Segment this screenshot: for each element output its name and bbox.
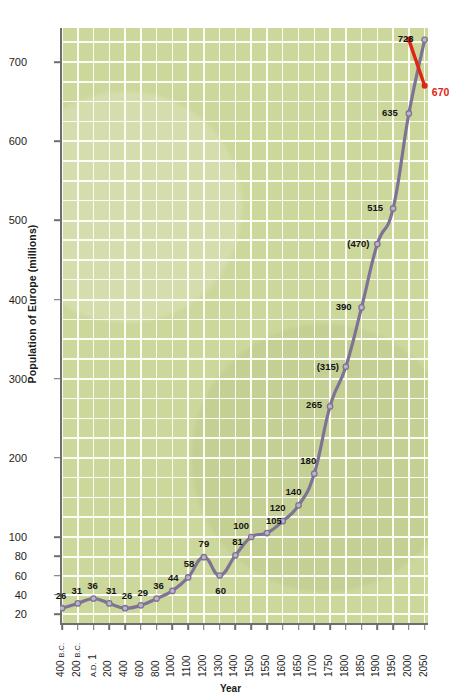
y-axis-tick-mark bbox=[54, 61, 60, 63]
gridline-horizontal bbox=[60, 81, 428, 83]
data-label: 105 bbox=[266, 515, 282, 526]
x-axis-tick-label: 1500 bbox=[244, 655, 255, 677]
x-axis-tick-mark bbox=[77, 625, 79, 630]
y-axis-tick-mark bbox=[54, 613, 60, 615]
gridline-horizontal bbox=[60, 477, 428, 479]
x-axis-tick-mark bbox=[124, 625, 126, 630]
gridline-vertical bbox=[109, 28, 111, 625]
x-axis-tick-mark bbox=[61, 625, 63, 630]
gridline-vertical bbox=[361, 28, 363, 625]
gridline-vertical bbox=[203, 28, 205, 625]
gridline-horizontal bbox=[60, 259, 428, 261]
gridline-horizontal bbox=[60, 180, 428, 182]
gridline-horizontal bbox=[60, 378, 428, 380]
y-axis-tick-mark bbox=[54, 140, 60, 142]
x-axis-tick-label: 400 B.C. bbox=[55, 643, 66, 677]
x-axis-tick-mark bbox=[266, 625, 268, 630]
gridline-horizontal bbox=[60, 160, 428, 162]
gridline-horizontal bbox=[60, 140, 428, 142]
gridline-horizontal bbox=[60, 319, 428, 321]
y-axis-tick-label: 80 bbox=[1, 550, 27, 562]
x-axis-tick-label: 1850 bbox=[355, 655, 366, 677]
x-axis-tick-mark bbox=[345, 625, 347, 630]
data-label: 81 bbox=[232, 536, 243, 547]
gridline-vertical bbox=[187, 28, 189, 625]
x-axis-tick-mark bbox=[187, 625, 189, 630]
gridline-horizontal bbox=[60, 536, 428, 538]
data-label: 60 bbox=[215, 584, 226, 595]
data-label: 100 bbox=[233, 520, 249, 531]
data-label: 180 bbox=[300, 454, 316, 465]
x-axis-tick-mark bbox=[140, 625, 142, 630]
data-label: 390 bbox=[336, 301, 352, 312]
gridline-vertical bbox=[329, 28, 331, 625]
gridline-horizontal bbox=[60, 358, 428, 360]
x-axis-tick-label: 1400 bbox=[228, 655, 239, 677]
x-axis-tick-label: 1800 bbox=[339, 655, 350, 677]
data-label: 265 bbox=[306, 399, 322, 410]
x-axis-tick-mark bbox=[313, 625, 315, 630]
x-axis-tick-label: 1000 bbox=[165, 655, 176, 677]
x-axis-tick-label: 600 bbox=[134, 660, 145, 677]
gridline-horizontal bbox=[60, 220, 428, 222]
x-axis-tick-label: 200 B.C. bbox=[71, 643, 82, 677]
data-label: 31 bbox=[106, 585, 117, 596]
gridline-vertical bbox=[377, 28, 379, 625]
data-label: 635 bbox=[382, 107, 398, 118]
y-axis-tick-mark bbox=[54, 594, 60, 596]
x-axis-tick-label: 1950 bbox=[386, 655, 397, 677]
chart-root: Population of Europe (millions) 26313631… bbox=[0, 0, 461, 700]
gridline-horizontal bbox=[60, 613, 428, 615]
gridline-horizontal bbox=[60, 437, 428, 439]
gridline-horizontal bbox=[60, 299, 428, 301]
data-label: 31 bbox=[71, 585, 82, 596]
gridline-vertical bbox=[219, 28, 221, 625]
gridline-vertical bbox=[124, 28, 126, 625]
gridline-horizontal bbox=[60, 338, 428, 340]
x-axis-tick-label: 1600 bbox=[276, 655, 287, 677]
x-axis-tick-label: 1700 bbox=[307, 655, 318, 677]
gridline-vertical bbox=[61, 28, 63, 625]
y-axis-tick-label: 700 bbox=[1, 56, 27, 68]
data-label: (470) bbox=[347, 238, 369, 249]
x-axis-tick-mark bbox=[282, 625, 284, 630]
x-axis-tick-label: 800 bbox=[150, 660, 161, 677]
y-axis-tick-label: 40 bbox=[1, 589, 27, 601]
gridline-horizontal bbox=[60, 516, 428, 518]
gridline-horizontal bbox=[60, 41, 428, 43]
data-label: 36 bbox=[153, 579, 164, 590]
x-axis-tick-mark bbox=[392, 625, 394, 630]
gridline-horizontal bbox=[60, 457, 428, 459]
data-label: 26 bbox=[122, 590, 133, 601]
y-axis-tick-mark bbox=[54, 555, 60, 557]
x-axis-tick-label: 2050 bbox=[418, 655, 429, 677]
x-axis-tick-label: 1550 bbox=[260, 655, 271, 677]
x-axis-tick-label: A.D. 1 bbox=[87, 654, 98, 677]
y-axis-tick-mark bbox=[54, 378, 60, 380]
gridline-vertical bbox=[314, 28, 316, 625]
data-label: 58 bbox=[184, 558, 195, 569]
x-axis-tick-label: 200 bbox=[102, 660, 113, 677]
x-axis-tick-mark bbox=[219, 625, 221, 630]
x-axis-tick-mark bbox=[93, 625, 95, 630]
data-label: 36 bbox=[87, 579, 98, 590]
gridline-vertical bbox=[93, 28, 95, 625]
gridline-vertical bbox=[266, 28, 268, 625]
gridline-horizontal bbox=[60, 61, 428, 63]
x-axis-tick-label: 1900 bbox=[370, 655, 381, 677]
x-axis-title: Year bbox=[0, 683, 461, 694]
gridline-vertical bbox=[140, 28, 142, 625]
y-axis-title: Population of Europe (millions) bbox=[26, 184, 38, 424]
x-axis-tick-mark bbox=[203, 625, 205, 630]
data-label: 79 bbox=[199, 538, 210, 549]
x-axis-tick-label: 1100 bbox=[181, 655, 192, 677]
gridline-vertical bbox=[282, 28, 284, 625]
x-axis-tick-mark bbox=[298, 625, 300, 630]
data-label: 140 bbox=[286, 486, 302, 497]
x-axis-tick-mark bbox=[329, 625, 331, 630]
x-axis-tick-label: 2000 bbox=[402, 655, 413, 677]
x-axis-tick-mark bbox=[172, 625, 174, 630]
x-axis-tick-mark bbox=[109, 625, 111, 630]
x-axis-tick-label: 400 bbox=[118, 660, 129, 677]
x-axis-tick-label: 1300 bbox=[213, 655, 224, 677]
